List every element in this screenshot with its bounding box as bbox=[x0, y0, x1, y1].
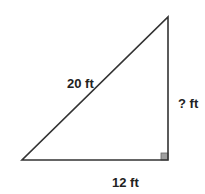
base-label: 12 ft bbox=[112, 176, 139, 189]
hypotenuse-label: 20 ft bbox=[67, 77, 94, 90]
triangle-figure bbox=[0, 0, 205, 194]
vertical-leg-label: ? ft bbox=[178, 97, 198, 110]
right-angle-marker bbox=[161, 153, 168, 160]
triangle-diagram: 20 ft ? ft 12 ft bbox=[0, 0, 205, 194]
triangle-outline bbox=[22, 17, 168, 160]
